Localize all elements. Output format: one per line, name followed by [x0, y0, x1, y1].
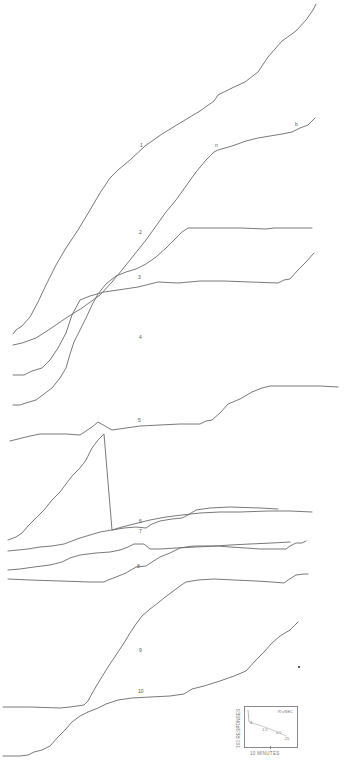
- curve-number-label: 5: [138, 418, 141, 423]
- cumulative-record-3: [13, 253, 314, 375]
- cumulative-records-plot: [0, 0, 348, 764]
- cumulative-record-9-main: [3, 574, 308, 708]
- curve-number-label: 9: [139, 648, 142, 653]
- cumulative-curves: [3, 4, 338, 756]
- inset-x-axis-label: 10 MINUTES: [250, 751, 280, 756]
- curve-number-label: 8: [137, 564, 140, 569]
- cumulative-record-7: [8, 511, 312, 551]
- curve-annotation: n: [215, 143, 218, 148]
- curve-number-label: 1: [140, 143, 143, 148]
- inset-rate-label: 1.5: [262, 727, 268, 732]
- cumulative-record-1: [13, 4, 316, 334]
- inset-unit-label: R's/SEC: [278, 709, 293, 714]
- cumulative-record-4: [13, 228, 312, 405]
- cumulative-record-9: [8, 541, 306, 582]
- curve-number-label: 2: [139, 230, 142, 235]
- cumulative-record-2: [13, 118, 315, 345]
- inset-rate-label: 4: [250, 720, 252, 725]
- cumulative-record-6: [8, 434, 278, 540]
- inset-y-axis-label: 300 RESPONSES: [236, 709, 241, 748]
- curve-number-label: 10: [138, 689, 144, 694]
- inset-x-tick: [270, 746, 271, 749]
- curve-number-label: 6: [139, 519, 142, 524]
- inset-rate-label: .25: [284, 736, 290, 741]
- curve-number-label: 4: [139, 335, 142, 340]
- cumulative-record-5: [10, 386, 338, 441]
- curve-annotation: b: [295, 122, 298, 127]
- inset-rate-label: 0.5: [276, 730, 282, 735]
- curve-end-marker: [298, 666, 300, 668]
- curve-number-label: 7: [139, 529, 142, 534]
- curve-number-label: 3: [138, 275, 141, 280]
